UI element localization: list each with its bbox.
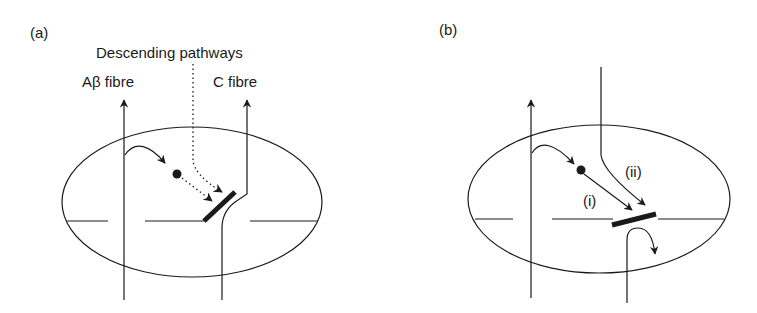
descending-pathways-label: Descending pathways — [96, 44, 243, 61]
path-ii-arrow — [601, 67, 645, 205]
synapse-bar — [612, 214, 656, 225]
diagram-canvas: (a) Descending pathways Aβ fibre C fibre… — [0, 0, 757, 313]
output-fibre-arrow — [627, 228, 655, 303]
collateral-arrow — [532, 145, 574, 164]
panel-a-label: (a) — [30, 24, 48, 41]
dorsal-horn-ellipse — [62, 127, 322, 277]
path-i-label: (i) — [583, 192, 596, 209]
c-fibre-label: C fibre — [213, 73, 257, 90]
dorsal-horn-ellipse — [468, 125, 730, 273]
abeta-fibre-label: Aβ fibre — [82, 73, 134, 90]
path-ii-label: (ii) — [625, 163, 642, 180]
collateral-arrow — [125, 146, 165, 163]
panel-a: (a) Descending pathways Aβ fibre C fibre — [30, 24, 322, 300]
interneuron-dot — [577, 166, 586, 175]
panel-b: (b) (i) (ii) — [439, 21, 730, 303]
interneuron-dot — [173, 170, 182, 179]
panel-b-label: (b) — [439, 21, 457, 38]
